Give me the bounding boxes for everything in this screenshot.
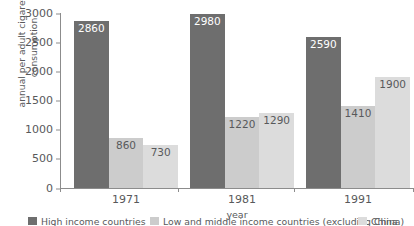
bar[interactable]: 1900: [375, 77, 410, 188]
bar-value-label: 1220: [225, 119, 260, 130]
y-axis-tick-label: 1500: [25, 94, 53, 107]
y-axis-tick-label: 1000: [25, 123, 53, 136]
y-axis-tick: 3000: [20, 13, 60, 14]
y-axis-tick: 500: [20, 158, 60, 159]
legend-item[interactable]: High income countries: [28, 217, 146, 226]
y-axis-tick-mark: [56, 130, 60, 131]
legend-color-swatch: [150, 217, 159, 225]
bar-group: 259014101900: [306, 13, 410, 188]
legend-label: China: [371, 217, 398, 226]
y-axis-tick: 1000: [20, 129, 60, 130]
bar[interactable]: 2980: [190, 14, 225, 188]
legend-label: High income countries: [41, 217, 146, 226]
bar-value-label: 1290: [259, 115, 294, 126]
y-axis-tick-mark: [56, 42, 60, 43]
y-axis-tick-label: 2000: [25, 65, 53, 78]
y-axis-tick: 2500: [20, 42, 60, 43]
plot-area: 050010001500200025003000 286086073029801…: [60, 13, 414, 188]
y-axis-tick: 0: [20, 188, 60, 189]
bar[interactable]: 860: [109, 138, 144, 188]
x-axis-category-label: 1971: [74, 193, 178, 206]
x-axis-category-label: 1981: [190, 193, 294, 206]
y-axis-tick-label: 0: [46, 182, 53, 195]
x-axis-tick-mark: [60, 188, 61, 192]
bar-chart: annual per adult cigarette consumption 0…: [0, 0, 414, 226]
bar[interactable]: 730: [143, 145, 178, 188]
y-axis-tick-mark: [56, 101, 60, 102]
y-axis-tick-mark: [56, 71, 60, 72]
legend-color-swatch: [28, 217, 37, 225]
x-axis-line: [60, 188, 414, 189]
bar-value-label: 2860: [74, 23, 109, 34]
y-axis-tick-mark: [56, 159, 60, 160]
bar[interactable]: 1220: [225, 117, 260, 188]
y-axis-tick: 2000: [20, 71, 60, 72]
bar-value-label: 2980: [190, 16, 225, 27]
x-axis-category-label: 1991: [306, 193, 410, 206]
bar-value-label: 2590: [306, 39, 341, 50]
y-axis-line: [60, 13, 61, 188]
bar-group: 2860860730: [74, 13, 178, 188]
bar[interactable]: 2590: [306, 37, 341, 188]
chart-legend: High income countriesLow and middle inco…: [28, 217, 414, 226]
y-axis-tick-label: 2500: [25, 36, 53, 49]
bar-value-label: 1410: [341, 108, 376, 119]
y-axis-tick-mark: [56, 13, 60, 14]
bar-value-label: 730: [143, 147, 178, 158]
legend-item[interactable]: China: [358, 217, 398, 226]
bar-group: 298012201290: [190, 13, 294, 188]
legend-color-swatch: [358, 217, 367, 225]
bar-value-label: 860: [109, 140, 144, 151]
y-axis-tick-label: 3000: [25, 7, 53, 20]
y-axis-tick: 1500: [20, 100, 60, 101]
bar-value-label: 1900: [375, 79, 410, 90]
bar[interactable]: 1290: [259, 113, 294, 188]
bar[interactable]: 1410: [341, 106, 376, 188]
x-axis-tick-mark: [178, 188, 179, 192]
x-axis-tick-mark: [294, 188, 295, 192]
bar[interactable]: 2860: [74, 21, 109, 188]
y-axis-tick-label: 500: [32, 152, 53, 165]
